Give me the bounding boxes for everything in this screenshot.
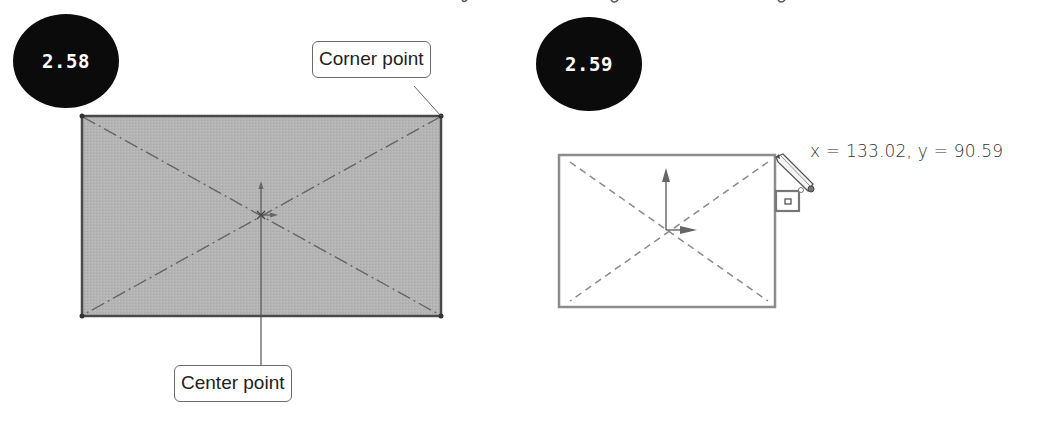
coordinate-readout: x = 133.02, y = 90.59: [810, 141, 1003, 161]
outline-rectangle-diagram: [0, 0, 1054, 427]
rectangle-tool-icon: [776, 188, 804, 212]
cursor-coordinates: x = 133.02, y = 90.59: [810, 141, 1003, 161]
pencil-icon: [776, 154, 814, 192]
